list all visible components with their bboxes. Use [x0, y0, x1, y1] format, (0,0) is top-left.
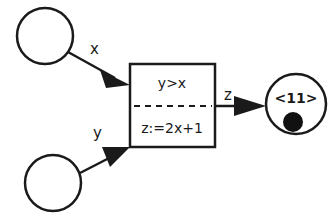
transition-action: z:=2x+1: [141, 120, 203, 136]
arc-y: y: [80, 124, 130, 173]
arrowhead-icon: [102, 147, 130, 167]
arrowhead-icon: [234, 96, 266, 116]
arc-label-z: z: [224, 86, 232, 104]
arc-z: z: [215, 86, 266, 116]
arc-label-x: x: [90, 40, 99, 58]
input-place-x: [17, 8, 73, 64]
token-value: <11>: [275, 90, 318, 106]
arc-x: x: [68, 40, 130, 88]
arrowhead-icon: [100, 70, 130, 88]
petri-net-diagram: x y y>x z:=2x+1 z <11>: [0, 0, 328, 223]
transition-box: y>x z:=2x+1: [130, 64, 215, 147]
transition-guard: y>x: [158, 75, 186, 91]
output-place-z: <11>: [266, 74, 326, 134]
input-place-y: [25, 155, 81, 211]
token-dot-icon: [283, 112, 303, 132]
arc-label-y: y: [93, 124, 102, 142]
